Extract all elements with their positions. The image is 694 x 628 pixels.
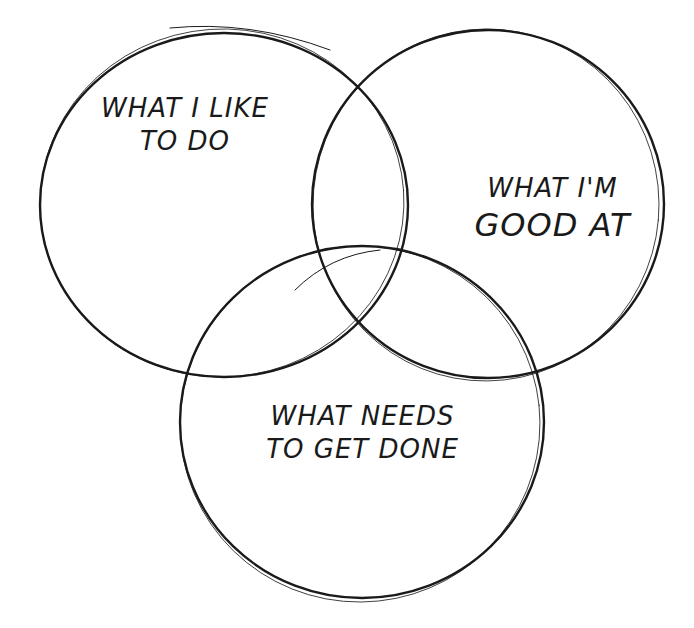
circle-like [28, 17, 415, 390]
label-line: GOOD AT [460, 205, 645, 245]
label-line: WHAT I LIKE [80, 92, 290, 125]
label-what-i-like-to-do: WHAT I LIKE TO DO [80, 92, 290, 157]
label-line: WHAT I'M [460, 172, 645, 205]
label-what-im-good-at: WHAT I'M GOOD AT [460, 172, 645, 245]
label-line: TO DO [80, 125, 290, 158]
label-line: WHAT NEEDS [245, 400, 480, 433]
label-line: TO GET DONE [245, 433, 480, 466]
label-what-needs-to-get-done: WHAT NEEDS TO GET DONE [245, 400, 480, 465]
